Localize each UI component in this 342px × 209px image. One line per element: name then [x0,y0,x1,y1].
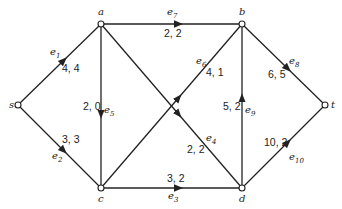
node-b: b [239,6,245,27]
node-c: c [98,185,104,204]
node-s: s [9,99,21,110]
node-circle-icon [98,21,104,27]
node-a: a [98,6,104,27]
node-label: c [98,193,104,204]
edge-e1 [18,24,101,105]
edge-e8 [242,24,325,105]
edge-flow-label: 2, 0 [83,100,101,112]
edge-flow-label: 5, 2 [223,100,241,112]
node-circle-icon [15,102,21,108]
node-circle-icon [98,185,104,191]
edge-flow-label: 2, 2 [164,27,182,39]
flow-network-diagram: e14, 4e23, 3e33, 2e42, 2e52, 0e64, 1e72,… [0,0,342,209]
edge-flow-label: 4, 1 [206,66,224,78]
edge-flow-label: 10, 2 [264,136,288,148]
node-label: t [331,99,336,110]
node-circle-icon [239,21,245,27]
edge-name-label: e9 [245,104,256,118]
node-d: d [239,185,245,204]
arrow-icon [177,98,178,100]
edge-labels: e14, 4e23, 3e33, 2e42, 2e52, 0e64, 1e72,… [50,6,304,204]
edge-name-label: e8 [289,55,300,69]
edge-flow-label: 3, 2 [167,172,185,184]
edge-flow-label: 3, 3 [62,133,80,145]
edge-name-label: e2 [52,150,63,164]
arrow-icon [287,68,288,69]
edge-flow-label: 6, 5 [268,68,286,80]
edge-name-label: e1 [50,46,60,60]
edge-name-label: e10 [289,151,304,165]
node-circle-icon [322,102,328,108]
node-label: d [239,193,245,204]
edge-line [18,24,101,105]
node-label: s [9,99,14,110]
edge-line [242,24,325,105]
edges [18,24,325,188]
edge-name-label: e5 [104,104,115,118]
node-label: b [239,6,245,17]
edge-flow-label: 4, 4 [62,62,80,74]
arrow-icon [63,150,64,151]
edge-name-label: e4 [206,132,216,146]
node-t: t [322,99,336,110]
node-circle-icon [239,185,245,191]
edge-line [18,105,101,188]
edge-flow-label: 2, 2 [187,143,205,155]
arrow-icon [177,113,178,115]
edge-e2 [18,105,101,188]
edge-name-label: e3 [168,190,179,204]
node-label: a [98,6,104,17]
edge-name-label: e7 [167,6,178,20]
